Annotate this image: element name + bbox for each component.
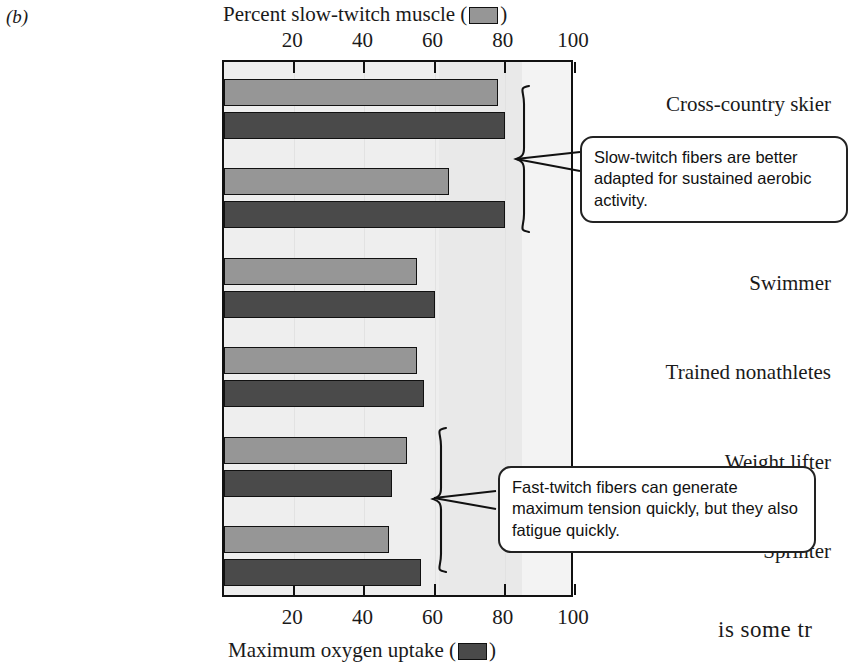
- bar-dark: [224, 470, 392, 497]
- gridline: [294, 62, 295, 595]
- bar-dark: [224, 201, 505, 228]
- tick-label-bottom-20: 20: [282, 605, 303, 630]
- category-label: Trained nonathletes: [624, 360, 839, 385]
- panel-letter: (b): [6, 6, 28, 28]
- tick-mark-bottom-80: [504, 584, 506, 595]
- tick-mark-bottom-100: [574, 584, 576, 595]
- top-axis-title: Percent slow-twitch muscle ( ): [223, 2, 507, 27]
- tick-label-top-40: 40: [352, 28, 373, 53]
- bar-light: [224, 79, 498, 106]
- bar-light: [224, 258, 417, 285]
- paren-close-top: ): [500, 2, 507, 27]
- tick-label-top-60: 60: [422, 28, 443, 53]
- category-label: Cross-country skier: [624, 92, 839, 117]
- tick-mark-bottom-60: [434, 584, 436, 595]
- bottom-axis-title-text: Maximum oxygen uptake: [228, 638, 444, 663]
- slow-twitch-swatch: [469, 7, 498, 24]
- category-label: Swimmer: [624, 271, 839, 296]
- body-text-fragment: is some tr: [718, 617, 812, 643]
- bar-dark: [224, 559, 421, 586]
- tick-label-bottom-40: 40: [352, 605, 373, 630]
- bar-light: [224, 526, 389, 553]
- callout-slow-twitch: Slow-twitch fibers are better adapted fo…: [580, 136, 848, 223]
- tick-label-bottom-80: 80: [492, 605, 513, 630]
- tick-label-top-100: 100: [557, 28, 589, 53]
- paren-open-top: (: [455, 2, 467, 27]
- oxygen-uptake-swatch: [458, 643, 487, 660]
- paren-open-bottom: (: [444, 638, 456, 663]
- bar-light: [224, 168, 449, 195]
- bar-dark: [224, 112, 505, 139]
- gridline: [364, 62, 365, 595]
- callout-fast-twitch: Fast-twitch fibers can generate maximum …: [498, 466, 816, 553]
- tick-mark-top-80: [504, 62, 506, 73]
- bottom-axis-title: Maximum oxygen uptake ( ): [228, 638, 496, 663]
- top-axis-title-text: Percent slow-twitch muscle: [223, 2, 455, 27]
- tick-label-bottom-100: 100: [557, 605, 589, 630]
- gridline: [435, 62, 436, 595]
- bar-dark: [224, 291, 435, 318]
- tick-mark-top-40: [363, 62, 365, 73]
- tick-label-top-80: 80: [492, 28, 513, 53]
- paren-close-bottom: ): [489, 638, 496, 663]
- tick-mark-top-100: [574, 62, 576, 73]
- tick-mark-top-20: [293, 62, 295, 73]
- tick-label-top-20: 20: [282, 28, 303, 53]
- bar-dark: [224, 380, 424, 407]
- tick-mark-top-60: [434, 62, 436, 73]
- tick-label-bottom-60: 60: [422, 605, 443, 630]
- bar-light: [224, 437, 407, 464]
- bar-light: [224, 347, 417, 374]
